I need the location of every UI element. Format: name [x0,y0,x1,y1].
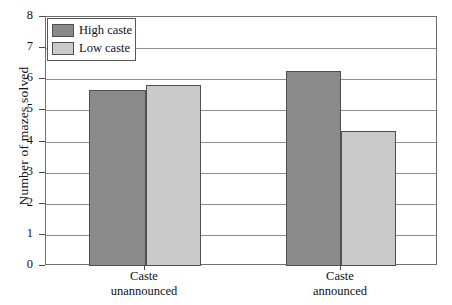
x-axis-label-group-1: Casteunannounced [59,269,229,299]
y-axis-tick-label: 7 [0,40,33,53]
x-axis-label-line: Caste [255,269,425,284]
legend-label-high-caste: High caste [79,24,132,37]
bar-low-caste-group-2 [341,131,396,266]
x-axis-label-line: Caste [59,269,229,284]
bar-high-caste-group-1 [89,90,146,266]
y-axis-tick-label: 5 [0,102,33,115]
x-axis-label-group-2: Casteannounced [255,269,425,299]
y-axis-tick-label: 4 [0,134,33,147]
y-axis-tick-label: 8 [0,9,33,22]
y-axis-tick-label: 6 [0,71,33,84]
y-axis-tick-label: 0 [0,258,33,271]
cropped-caption-remnant [0,298,452,305]
chart-legend: High caste Low caste [47,18,136,61]
bar-high-caste-group-2 [286,71,341,266]
bar-low-caste-group-1 [146,85,201,266]
legend-item-high-caste: High caste [52,22,131,39]
legend-item-low-caste: Low caste [52,40,131,57]
gridline [46,79,436,80]
legend-swatch-high-caste [52,24,74,37]
y-axis-tick-label: 2 [0,196,33,209]
y-axis-tick-label: 1 [0,227,33,240]
x-axis-label-line: announced [255,284,425,299]
legend-swatch-low-caste [52,42,74,55]
x-axis-label-line: unannounced [59,284,229,299]
y-axis-tick-label: 3 [0,165,33,178]
bar-chart-figure: Number of mazes solved 012345678 Casteun… [0,0,452,305]
legend-label-low-caste: Low caste [79,42,130,55]
y-axis-tick [39,265,45,266]
